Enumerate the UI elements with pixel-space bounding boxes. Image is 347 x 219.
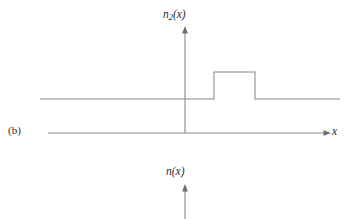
lower-y-axis-title-arg: (x): [172, 165, 185, 177]
figure-panel-b: (b) n2(x) n(x) x: [0, 0, 347, 219]
lower-y-axis-title: n(x): [166, 166, 185, 178]
x-axis-title: x: [332, 126, 337, 138]
upper-y-axis-title-arg: (x): [173, 8, 186, 20]
upper-horizontal-axis: [48, 130, 331, 136]
lower-vertical-axis: [182, 184, 188, 219]
lower-vertical-axis-arrowhead: [182, 184, 188, 192]
x-axis-arrowhead: [324, 130, 332, 136]
upper-vertical-axis: [182, 26, 188, 133]
panel-label-b: (b): [8, 125, 21, 136]
figure-drawing: [0, 0, 347, 219]
index-profile-step-curve: [40, 72, 340, 99]
upper-y-axis-title: n2(x): [163, 9, 186, 22]
upper-vertical-axis-arrowhead: [182, 26, 188, 34]
